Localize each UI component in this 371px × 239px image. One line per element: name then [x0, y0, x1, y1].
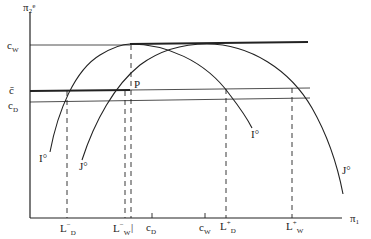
cbar-line-thin	[130, 88, 310, 90]
x-tick-bar: |	[131, 222, 133, 233]
x-tick-cd: cD	[146, 222, 156, 236]
y-axis-label: π₂ᵉ	[23, 2, 35, 13]
label-I-left: I°	[39, 153, 47, 164]
x-axis-label: π₁	[350, 213, 359, 224]
label-I-right: I°	[251, 129, 259, 140]
curve-I	[50, 44, 252, 152]
x-tick-lw-plus: L+W	[286, 220, 303, 235]
y-tick-cd: cD	[8, 100, 18, 114]
x-tick-ld-plus: L+D	[220, 220, 236, 235]
x-tick-lw-minus: L−W	[113, 222, 130, 237]
diagram: π₂ᵉ π₁ cW c̄ cD L−D L−W | cD cW L+D L+W …	[0, 0, 371, 239]
point-P-label: P	[134, 79, 140, 90]
x-tick-cw: cW	[199, 222, 211, 236]
y-tick-cbar: c̄	[9, 85, 14, 96]
cw-line-thick	[130, 42, 308, 44]
cbar-line-thick	[30, 90, 130, 91]
cd-line	[30, 98, 310, 102]
label-J-right: J°	[342, 165, 351, 176]
x-tick-ld-minus: L−D	[60, 222, 76, 237]
diagram-canvas	[0, 0, 371, 239]
y-tick-cw: cW	[7, 40, 19, 54]
label-J-left: J°	[79, 161, 88, 172]
curve-J	[82, 44, 343, 194]
